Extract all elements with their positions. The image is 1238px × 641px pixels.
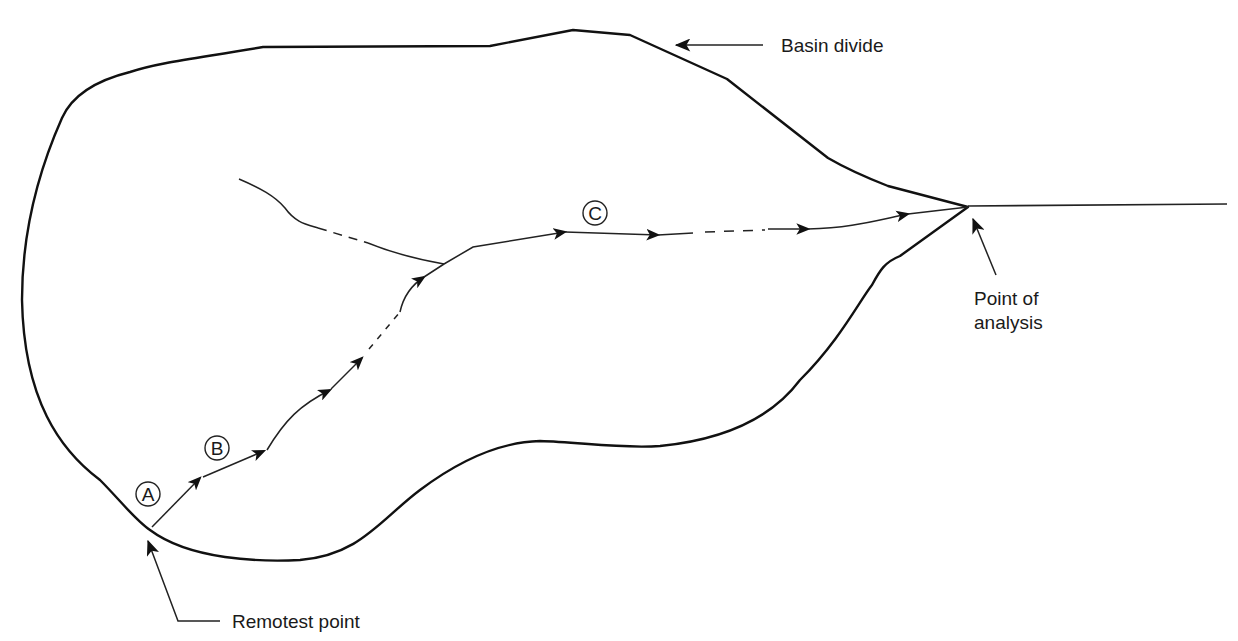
tributary-dashed [318, 228, 368, 243]
basin-divide-outline [22, 30, 968, 561]
marker-a: A [136, 482, 160, 506]
tributary-solid-upper [239, 179, 318, 228]
flow-path-segment-b4 [400, 277, 424, 312]
remotest-point-leader-arrow [148, 541, 220, 621]
flow-path-segment-a [152, 478, 200, 527]
point-of-analysis-leader-arrow [973, 219, 996, 275]
point-of-analysis-label-line2: analysis [974, 312, 1043, 333]
marker-b: B [205, 436, 229, 460]
outlet-channel [968, 204, 1227, 206]
flow-path-segment-b2 [267, 390, 330, 450]
remotest-point-label: Remotest point [232, 611, 361, 632]
flow-path-segment-c3 [808, 214, 908, 229]
flow-path-segment-c-solid [658, 233, 693, 235]
watershed-diagram: A B C Basin divide Point of analysis Rem… [0, 0, 1238, 641]
marker-a-label: A [142, 484, 155, 505]
tributary-solid-lower [368, 243, 444, 264]
basin-divide-label: Basin divide [781, 35, 883, 56]
flow-path-segment-c1 [565, 232, 658, 235]
flow-path-segment-b3 [331, 358, 362, 389]
point-of-analysis-label-line1: Point of [974, 288, 1039, 309]
flow-path-to-junction [424, 232, 565, 277]
marker-c-label: C [588, 203, 602, 224]
marker-b-label: B [211, 438, 224, 459]
marker-c: C [583, 201, 607, 225]
flow-path-segment-c-dashed [705, 230, 765, 232]
flow-path-segment-b-dashed [369, 312, 400, 349]
